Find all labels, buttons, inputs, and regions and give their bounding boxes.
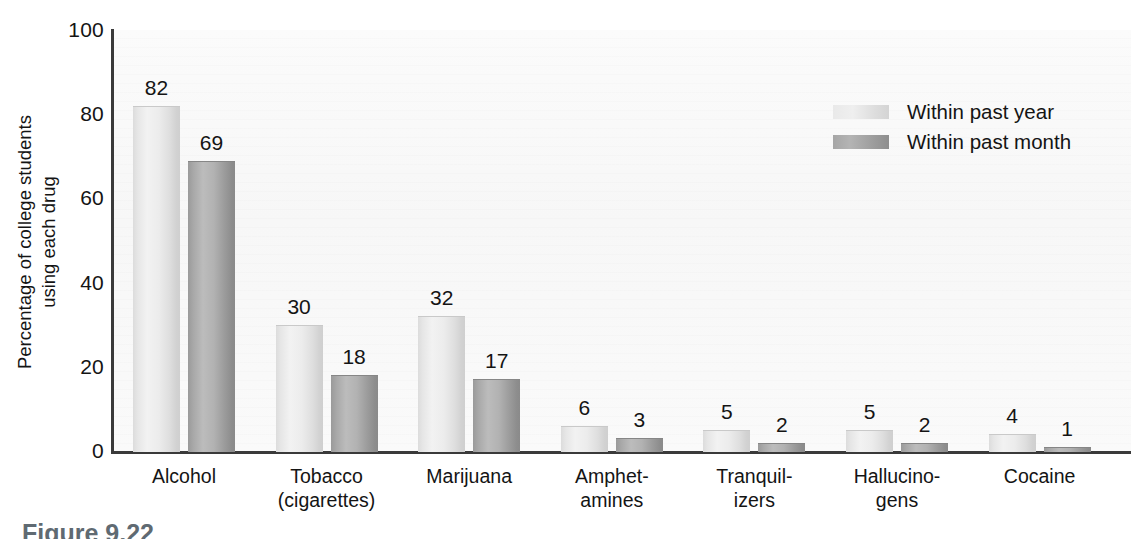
bar-past-month bbox=[758, 443, 805, 452]
x-tick-label: Hallucino- gens bbox=[817, 464, 977, 512]
legend-item: Within past month bbox=[833, 127, 1071, 157]
x-tick-label: Marijuana bbox=[389, 464, 549, 488]
x-tick-label: Amphet- amines bbox=[532, 464, 692, 512]
bar-value-label: 2 bbox=[746, 414, 817, 435]
bar-past-year bbox=[989, 434, 1036, 452]
plot-area bbox=[113, 30, 1131, 453]
bar-past-month bbox=[616, 438, 663, 452]
bar-past-year bbox=[561, 426, 608, 452]
y-axis-ticks: 020406080100 bbox=[0, 0, 104, 539]
y-tick-label: 100 bbox=[4, 19, 104, 40]
bar-past-year bbox=[418, 316, 465, 452]
bar-past-month bbox=[1044, 447, 1091, 452]
bar-value-label: 17 bbox=[461, 350, 532, 371]
bar-value-label: 18 bbox=[319, 346, 390, 367]
x-tick-label: Tobacco (cigarettes) bbox=[247, 464, 407, 512]
bar-past-year bbox=[846, 430, 893, 452]
y-axis-line bbox=[111, 29, 114, 454]
bar-value-label: 30 bbox=[264, 296, 335, 317]
bar-value-label: 3 bbox=[604, 409, 675, 430]
legend-item: Within past year bbox=[833, 97, 1071, 127]
bar-value-label: 1 bbox=[1032, 418, 1103, 439]
bar-past-month bbox=[331, 375, 378, 452]
y-tick-label: 80 bbox=[4, 103, 104, 124]
y-tick-label: 20 bbox=[4, 356, 104, 377]
bar-past-month bbox=[473, 379, 520, 452]
figure-container: Percentage of college students using eac… bbox=[0, 0, 1146, 539]
bar-value-label: 32 bbox=[406, 287, 477, 308]
legend-swatch-light bbox=[833, 105, 889, 119]
bar-past-month bbox=[901, 443, 948, 452]
legend-label: Within past month bbox=[907, 131, 1071, 153]
x-tick-label: Cocaine bbox=[960, 464, 1120, 488]
y-tick-label: 0 bbox=[4, 440, 104, 461]
figure-caption: Figure 9.22 bbox=[22, 520, 154, 539]
x-tick-label: Tranquil- izers bbox=[674, 464, 834, 512]
bar-value-label: 69 bbox=[176, 132, 247, 153]
legend-swatch-dark bbox=[833, 135, 889, 149]
y-tick-label: 40 bbox=[4, 272, 104, 293]
bar-past-year bbox=[276, 325, 323, 452]
bar-past-year bbox=[133, 106, 180, 452]
legend-label: Within past year bbox=[907, 101, 1054, 123]
bar-value-label: 82 bbox=[121, 77, 192, 98]
legend: Within past yearWithin past month bbox=[833, 97, 1071, 157]
bar-past-year bbox=[703, 430, 750, 452]
bar-value-label: 2 bbox=[889, 414, 960, 435]
y-tick-label: 60 bbox=[4, 187, 104, 208]
x-tick-label: Alcohol bbox=[104, 464, 264, 488]
bar-past-month bbox=[188, 161, 235, 452]
